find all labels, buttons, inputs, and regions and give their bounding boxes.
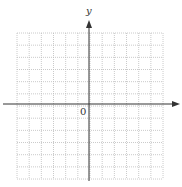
grid xyxy=(17,33,163,179)
y-axis-arrow-icon xyxy=(86,20,92,28)
coordinate-plane xyxy=(0,0,182,187)
x-axis-arrow-icon xyxy=(172,101,180,107)
y-axis-label: y xyxy=(86,5,92,16)
origin-label: 0 xyxy=(80,106,86,117)
